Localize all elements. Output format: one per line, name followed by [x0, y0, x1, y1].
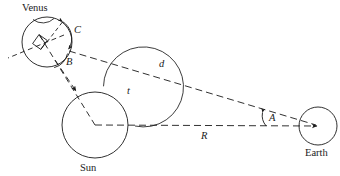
label-venus: Venus — [22, 3, 48, 14]
angle-arc-A — [262, 113, 266, 127]
line-venus-earth-d — [69, 51, 316, 125]
label-sun: Sun — [80, 163, 96, 174]
label-distance-d: d — [159, 59, 164, 70]
label-angle-C: C — [74, 25, 81, 36]
label-angle-B: B — [66, 57, 72, 68]
line-sun-through-venus — [40, 36, 95, 125]
diagram-svg — [0, 0, 340, 176]
label-arc-t: t — [127, 86, 130, 97]
label-angle-A: A — [269, 113, 275, 124]
figure-canvas: Venus Sun Earth d R A B C t — [0, 0, 340, 176]
label-distance-R: R — [201, 131, 207, 142]
label-earth: Earth — [305, 148, 328, 159]
right-angle-marker — [33, 35, 48, 50]
sun-outer-arc-t — [104, 47, 184, 127]
